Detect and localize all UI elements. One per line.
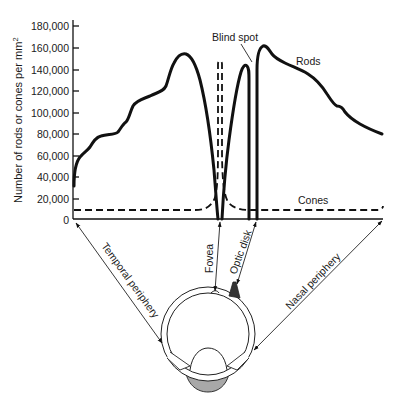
y-tick-20000: 20,000	[37, 193, 69, 205]
y-tick-160000: 160,000	[31, 42, 69, 54]
y-axis	[73, 20, 79, 219]
eye-diagram	[161, 282, 255, 392]
y-tick-120000: 120,000	[31, 85, 69, 97]
y-tick-100000: 100,000	[31, 107, 69, 119]
y-tick-60000: 60,000	[37, 150, 69, 162]
blind-spot-label: Blind spot	[212, 31, 258, 43]
nasal-periphery-arrow	[254, 221, 382, 350]
retina-density-figure: Number of rods or cones per mm2 0 20,000…	[0, 0, 398, 403]
blind-spot-leader	[241, 44, 252, 62]
fovea-arrow	[215, 222, 220, 291]
temporal-periphery-label: Temporal periphery	[99, 240, 162, 320]
fovea-label: Fovea	[203, 244, 215, 273]
y-tick-80000: 80,000	[37, 128, 69, 140]
y-tick-0: 0	[63, 214, 69, 226]
y-axis-title: Number of rods or cones per mm2	[11, 37, 24, 203]
y-tick-labels: 0 20,000 40,000 60,000 80,000 100,000 12…	[31, 20, 69, 226]
y-tick-40000: 40,000	[37, 171, 69, 183]
cones-label: Cones	[298, 194, 328, 206]
optic-disk-label: Optic disk	[227, 228, 254, 276]
y-tick-140000: 140,000	[31, 64, 69, 76]
y-tick-180000: 180,000	[31, 20, 69, 32]
temporal-periphery-arrow	[76, 223, 162, 343]
optic-nerve	[229, 282, 240, 298]
rods-label: Rods	[296, 55, 321, 67]
rods-curve-left	[74, 54, 218, 219]
nasal-periphery-label: Nasal periphery	[283, 250, 343, 312]
